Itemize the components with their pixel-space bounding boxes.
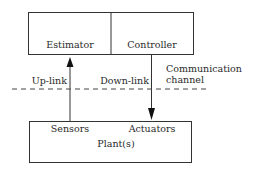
channel-label-line1: Communication — [166, 63, 242, 74]
estimator-label: Estimator — [46, 39, 94, 50]
plant-box: Sensors Actuators Plant(s) — [30, 122, 192, 163]
arrowhead-down-icon — [148, 108, 155, 120]
downlink-arrow: Down-link — [100, 55, 155, 121]
sensors-label: Sensors — [51, 123, 89, 134]
downlink-label: Down-link — [100, 75, 149, 86]
estimator-controller-box: Estimator Controller — [29, 13, 194, 55]
plant-label: Plant(s) — [97, 138, 134, 149]
arrowhead-up-icon — [67, 57, 74, 67]
uplink-label: Up-link — [32, 75, 67, 86]
networked-control-diagram: Estimator Controller Up-link Down-link C… — [0, 0, 259, 172]
channel-label-line2: channel — [166, 74, 204, 85]
actuators-label: Actuators — [128, 123, 176, 134]
controller-label: Controller — [127, 39, 177, 50]
